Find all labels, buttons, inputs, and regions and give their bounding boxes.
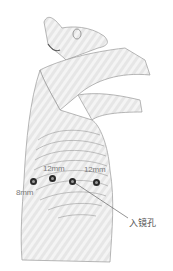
port-marker-camera — [69, 178, 76, 185]
port-marker-12mm-right — [93, 179, 100, 186]
label-camera-port: 入镜孔 — [129, 216, 156, 229]
port-marker-8mm — [30, 178, 37, 185]
illustration: 12mm 12mm 8mm 入镜孔 — [0, 0, 173, 271]
port-marker-12mm-left — [49, 175, 56, 182]
patient-sketch — [0, 0, 173, 271]
label-port-2: 12mm — [43, 164, 64, 173]
label-port-1: 8mm — [16, 188, 33, 197]
label-port-4: 12mm — [84, 165, 105, 174]
